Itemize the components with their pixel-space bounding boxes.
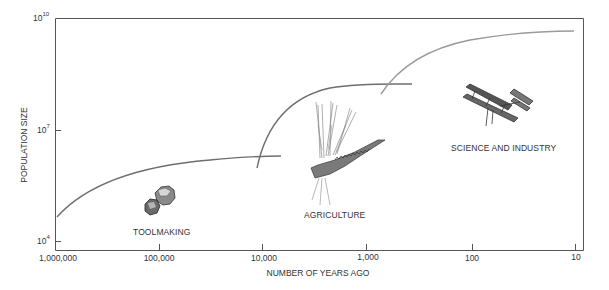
stone-tools-icon [145,186,175,215]
wheat-sickle-icon [311,101,385,205]
x-tick-100000: 100,000 [144,253,175,263]
x-tick-10000: 10,000 [251,253,277,263]
population-growth-chart: 1010 107 104 1,000,000 100,000 10,000 1,… [0,0,609,290]
industry-label: SCIENCE AND INDUSTRY [451,143,556,153]
agriculture-label: AGRICULTURE [304,210,365,220]
y-axis-ticks [56,131,62,242]
x-tick-100: 100 [465,253,479,263]
y-tick-10-7: 107 [37,124,50,135]
toolmaking-label: TOOLMAKING [133,227,191,237]
x-axis-ticks [160,244,576,250]
y-tick-10-4: 104 [37,235,50,246]
y-tick-10-10: 1010 [33,12,49,23]
x-axis-title: NUMBER OF YEARS AGO [267,268,370,278]
y-axis-title: POPULATION SIZE [19,107,29,182]
biplane-icon [463,84,533,126]
x-tick-1000: 1,000 [357,252,378,262]
x-tick-10: 10 [571,252,580,262]
x-tick-1000000: 1,000,000 [39,253,77,263]
